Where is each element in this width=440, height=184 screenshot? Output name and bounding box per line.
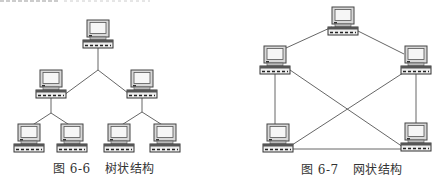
computer-icon <box>36 70 66 98</box>
computer-icon <box>104 124 134 152</box>
caption-title: 树状结构 <box>105 162 155 176</box>
figure-caption-6-7: 图 6-7 网状结构 <box>301 160 403 177</box>
caption-prefix: 图 <box>53 162 66 176</box>
computer-icon <box>328 7 358 35</box>
caption-number: 6-6 <box>70 162 91 176</box>
computer-icon <box>401 123 431 151</box>
computer-icon <box>260 46 290 74</box>
mesh-links <box>275 27 416 149</box>
diagram-canvas <box>0 0 440 184</box>
computer-icon <box>263 124 293 152</box>
figure-caption-6-6: 图 6-6 树状结构 <box>53 159 155 176</box>
computer-icon <box>150 124 180 152</box>
mesh-diagram <box>260 7 431 152</box>
computer-icon <box>401 46 431 74</box>
caption-title: 网状结构 <box>353 163 403 177</box>
computer-icon <box>127 70 157 98</box>
tree-diagram <box>14 20 180 152</box>
computer-icon <box>83 20 113 48</box>
computer-icon <box>14 124 44 152</box>
caption-prefix: 图 <box>301 163 314 177</box>
caption-number: 6-7 <box>318 163 339 177</box>
computer-icon <box>57 124 87 152</box>
